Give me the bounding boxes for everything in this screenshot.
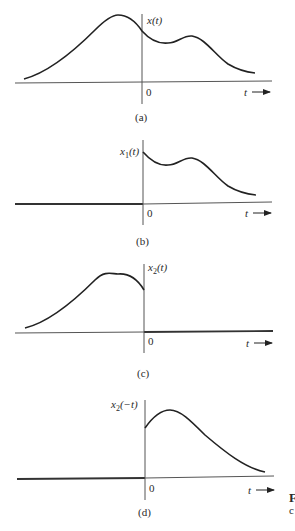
panel-a: x(t) 0 t (a) (15, 14, 272, 124)
origin-label: 0 (147, 207, 153, 219)
panel-caption: (a) (135, 111, 148, 124)
signal-curve-x (24, 15, 255, 79)
signal-label: x(t) (146, 14, 163, 27)
panel-d: x2(−t) 0 t (d) (17, 398, 274, 519)
signal-label: x2(t) (147, 261, 168, 276)
zero-signal-line (17, 478, 145, 479)
panel-c: x2(t) 0 t (c) (15, 261, 273, 380)
signal-label: x1(t) (119, 145, 140, 160)
horizontal-axis (143, 202, 272, 204)
figure-ref-letter: F (289, 490, 295, 505)
panel-caption: (d) (138, 506, 151, 519)
origin-label: 0 (146, 86, 152, 98)
horizontal-axis (15, 81, 272, 83)
origin-label: 0 (149, 482, 155, 494)
panel-caption: (c) (137, 367, 150, 380)
time-label: t (248, 484, 252, 496)
horizontal-axis (145, 476, 274, 478)
horizontal-axis (15, 332, 144, 333)
signal-curve-x1 (143, 152, 256, 195)
signal-curve-x2 (25, 273, 144, 328)
origin-label: 0 (148, 335, 154, 347)
figure-ref-text: c (289, 504, 294, 516)
time-label: t (246, 337, 250, 349)
signal-label: x2(−t) (110, 398, 138, 413)
signal-decomposition-figure: x(t) 0 t (a) x1(t) 0 t (b) x2(t) 0 t (c) (0, 0, 295, 531)
zero-signal-line (144, 331, 273, 332)
panel-b: x1(t) 0 t (b) (15, 140, 272, 248)
panel-caption: (b) (136, 235, 149, 248)
signal-curve-x2-reversed (145, 410, 265, 472)
time-label: t (245, 207, 249, 219)
time-label: t (244, 86, 248, 98)
